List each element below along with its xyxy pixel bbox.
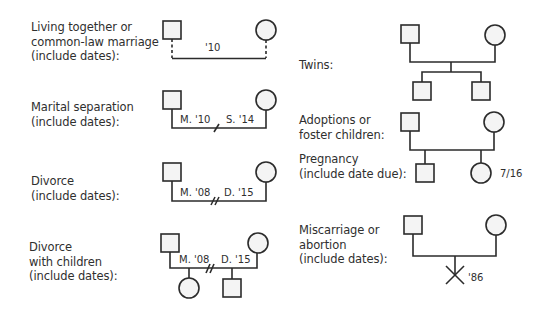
marriage-line [410,43,495,62]
male-square-icon [401,25,419,43]
male-square-icon [163,91,181,109]
male-square-icon [161,234,179,252]
due-date-label: 7/16 [500,168,522,179]
male-square-icon [163,163,181,181]
female-circle-icon [256,90,276,110]
adopted-child-square-icon [416,164,434,182]
female-circle-icon [256,162,276,182]
miscarriage-date-label: '86 [468,272,483,283]
pregnancy-circle-icon [471,163,491,183]
miscarriage-symbol: '86 [404,215,506,284]
male-square-icon [401,113,419,131]
divorced-date-label: D. '15 [221,254,251,265]
twin-son-square-icon [413,82,431,100]
marriage-line [413,234,496,256]
female-circle-icon [484,112,504,132]
female-circle-icon [248,233,268,253]
son-square-icon [223,279,241,297]
marriage-line [410,131,494,150]
twin-branch [422,72,481,82]
divorced-date-label: D. '15 [224,187,254,198]
marital-separation-symbol: M. '10 S. '14 [163,90,276,132]
divorce-symbol: M. '08 D. '15 [163,162,276,205]
genogram-legend-diagram: '10 M. '10 S. '14 M. '08 D. '15 M. '08 D… [0,0,548,317]
married-date-label: M. '08 [180,187,210,198]
male-square-icon [163,21,181,39]
female-circle-icon [486,215,506,235]
living-together-symbol: '10 [163,20,276,59]
divorce-children-symbol: M. '08 D. '15 [161,233,268,298]
daughter-circle-icon [179,278,199,298]
date-label: '10 [205,42,220,53]
female-circle-icon [485,25,505,45]
male-square-icon [404,216,422,234]
married-date-label: M. '08 [179,254,209,265]
married-date-label: M. '10 [180,114,210,125]
twin-son-square-icon [472,82,490,100]
twins-symbol [401,25,505,100]
adoption-pregnancy-symbol: 7/16 [401,112,522,183]
female-circle-icon [256,20,276,40]
separated-date-label: S. '14 [226,114,254,125]
